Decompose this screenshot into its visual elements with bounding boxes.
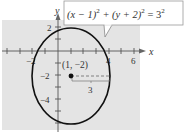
x-axis-label: x: [148, 46, 154, 57]
radius-label: 3: [88, 85, 93, 95]
y-tick-label-neg2: −2: [40, 71, 50, 81]
y-axis-label: y: [54, 5, 60, 16]
circle-graph: x −2 4 6 y 2 −2 −4 3 (1, −2): [0, 0, 184, 140]
y-tick-label-2: 2: [47, 23, 52, 33]
x-axis-arrow-icon: [139, 49, 146, 54]
y-tick-label-neg4: −4: [40, 95, 50, 105]
x-tick-label-6: 6: [131, 56, 136, 66]
center-label: (1, −2): [62, 60, 88, 71]
center-point: [69, 74, 74, 79]
equation-text: (x − 1)2 + (y + 2)2 = 32: [67, 7, 165, 21]
